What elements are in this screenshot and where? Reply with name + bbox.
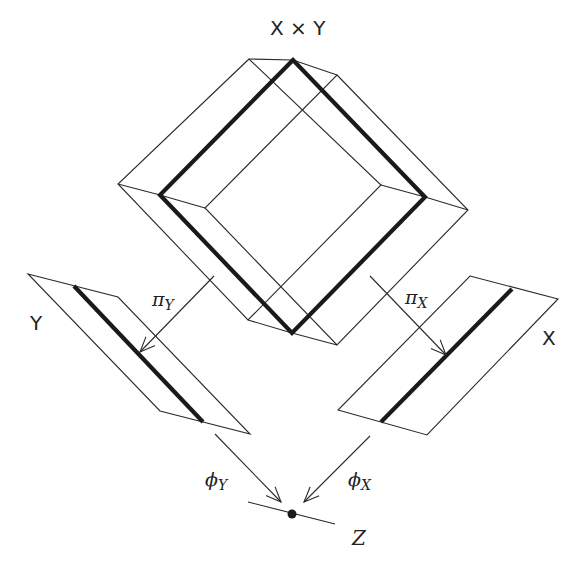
x-label: X [542,326,556,350]
z-point [288,510,297,519]
product-box-outer-right-face [205,75,468,345]
product-label: X × Y [270,16,326,40]
fiber-product-diagram: X × Y Y X πY πX ϕY ϕX Z [0,0,577,565]
proj-y-label: πY [151,288,176,313]
y-label: Y [29,311,43,335]
x-plane-thick-line [381,289,512,422]
proj-x-label: πX [404,286,429,311]
phi-x-label: ϕX [348,468,372,493]
z-label: Z [351,526,367,550]
x-plane [338,276,558,435]
phi-y-label: ϕY [205,468,229,493]
y-plane [28,274,250,434]
